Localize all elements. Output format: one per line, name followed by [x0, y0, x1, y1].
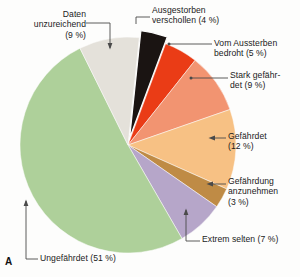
leader-line-ungefaehrdet: [26, 201, 38, 259]
leader-line-ausgestorben: [136, 17, 150, 24]
slice-label-daten-unzureichend: Daten unzureichend (9 %): [8, 9, 86, 40]
slice-label-ausgestorben-verschollen: Ausgestorben verschollen (4 %): [152, 5, 272, 26]
slice-label-extrem-selten: Extrem selten (7 %): [202, 234, 300, 244]
slice-label-gefaehrdet: Gefährdet (12 %): [228, 131, 300, 152]
slice-label-stark-gefaehrdet: Stark gefähr- det (9 %): [230, 70, 300, 91]
slice-label-gefaehrdung-anzunehmen: Gefährdung anzunehmen (3 %): [228, 176, 300, 207]
leader-arrow-ungefaehrdet: [24, 200, 29, 207]
pie-chart-figure: Daten unzureichend (9 %) Ausgestorben ve…: [0, 0, 300, 277]
leader-dot-stark-gefaehrdet: [190, 77, 193, 80]
pie-slice-group: [20, 31, 236, 253]
leader-dot-vom-aussterben: [168, 43, 171, 46]
slice-label-vom-aussterben-bedroht: Vom Aussterben bedroht (5 %): [214, 38, 300, 59]
panel-letter-label: A: [5, 256, 12, 267]
slice-label-ungefaehrdet: Ungefährdet (51 %): [40, 253, 170, 263]
